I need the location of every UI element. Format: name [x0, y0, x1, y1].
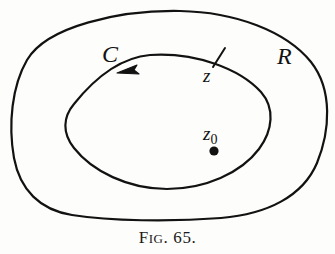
contour-label-C: C	[102, 42, 118, 66]
contour-C	[65, 55, 270, 189]
contour-diagram-canvas	[0, 0, 335, 254]
figure-container: C R z z0 FIG. 65.	[0, 0, 335, 254]
point-label-z0: z0	[203, 124, 217, 147]
caption-rest: . 65.	[164, 228, 197, 247]
region-label-R: R	[277, 44, 292, 68]
z0-subscript: 0	[210, 132, 217, 147]
figure-caption: FIG. 65.	[0, 228, 335, 248]
point-label-z-prime: z	[203, 66, 210, 85]
caption-smallcaps: IG	[149, 231, 164, 246]
contour-direction-arrowhead	[117, 65, 139, 74]
z0-point-dot	[209, 146, 218, 155]
caption-prefix: F	[139, 228, 149, 247]
